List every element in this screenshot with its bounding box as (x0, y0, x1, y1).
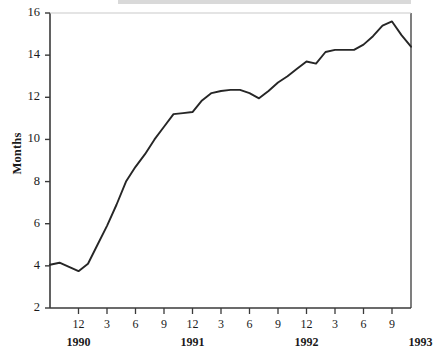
x-axis-month-tick-label: 6 (235, 318, 265, 330)
chart-data-series (50, 21, 411, 271)
y-axis-tick-label: 8 (14, 175, 40, 188)
x-axis-month-tick-label: 12 (64, 318, 94, 330)
y-axis-tick-label: 4 (14, 259, 40, 272)
x-axis-month-tick-label: 3 (320, 318, 350, 330)
y-axis-tick-label: 6 (14, 217, 40, 230)
x-axis-month-tick-label: 6 (349, 318, 379, 330)
x-axis-year-label: 1990 (54, 336, 104, 348)
x-axis-month-tick-label: 3 (92, 318, 122, 330)
x-axis-month-tick-label: 3 (206, 318, 236, 330)
x-axis-month-tick-label: 12 (178, 318, 208, 330)
chart-axes (50, 13, 411, 308)
x-axis-month-tick-label: 12 (292, 318, 322, 330)
x-axis-month-tick-label: 9 (377, 318, 407, 330)
y-axis-tick-label: 2 (14, 301, 40, 314)
x-axis-year-label: 1993 (396, 336, 437, 348)
y-axis-tick-label: 10 (14, 132, 40, 145)
x-axis-year-label: 1992 (282, 336, 332, 348)
x-axis-month-tick-label: 6 (121, 318, 151, 330)
x-axis-month-tick-label: 9 (263, 318, 293, 330)
y-axis-tick-label: 14 (14, 48, 40, 61)
y-axis-tick-label: 12 (14, 90, 40, 103)
x-axis-year-label: 1991 (168, 336, 218, 348)
y-axis-tick-label: 16 (14, 6, 40, 19)
x-axis-month-tick-label: 9 (149, 318, 179, 330)
chart-tick-marks (45, 13, 392, 314)
